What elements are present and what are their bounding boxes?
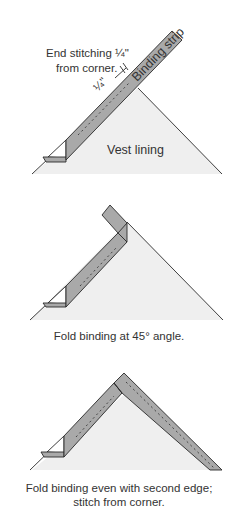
- strip-fold-end: [47, 436, 64, 453]
- binding-strip-label: Binding strip: [129, 25, 187, 84]
- vest-lining-label: Vest lining: [107, 143, 164, 157]
- panel-1: ¼" Binding strip End stitching ¼" from c…: [32, 25, 222, 174]
- strip-bottom-tab: [43, 303, 66, 307]
- vest-lining-shape: [32, 395, 212, 470]
- instruction-line-1: End stitching ¼": [46, 47, 129, 59]
- strip-fold-end: [48, 286, 66, 304]
- strip-bottom-tab: [43, 157, 66, 162]
- strip-bottom-tab: [41, 452, 64, 457]
- panel-2: Fold binding at 45° angle.: [30, 205, 223, 342]
- caption-step-3-line-2: stitch from corner.: [73, 496, 164, 508]
- caption-step-2: Fold binding at 45° angle.: [54, 330, 185, 342]
- measure-label: ¼": [91, 75, 109, 93]
- caption-step-3-line-1: Fold binding even with second edge;: [26, 482, 213, 494]
- instruction-line-2: from corner.: [56, 62, 117, 74]
- panel-3: Fold binding even with second edge; stit…: [26, 373, 222, 508]
- binding-diagram: ¼" Binding strip End stitching ¼" from c…: [0, 0, 239, 529]
- strip-fold-end: [48, 140, 66, 158]
